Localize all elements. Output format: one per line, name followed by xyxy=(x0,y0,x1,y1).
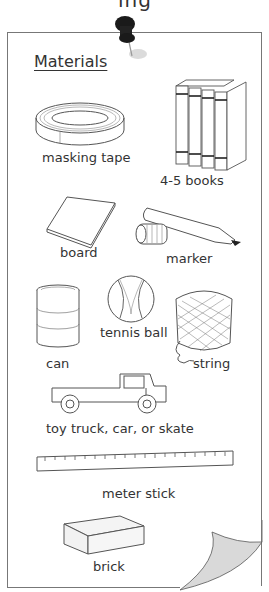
meter-stick-label: meter stick xyxy=(102,486,175,501)
page-curl-icon xyxy=(180,520,269,592)
toy-truck-label: toy truck, car, or skate xyxy=(46,421,194,436)
books-label: 4-5 books xyxy=(160,173,224,188)
can-icon xyxy=(34,284,82,350)
materials-title: Materials xyxy=(34,52,107,71)
pushpin-icon xyxy=(110,14,150,64)
toy-truck-icon xyxy=(50,372,170,414)
meter-stick-icon xyxy=(35,449,235,475)
marker-icon xyxy=(135,200,245,250)
masking-tape-icon xyxy=(30,100,130,150)
marker-label: marker xyxy=(166,251,212,266)
tennis-ball-label: tennis ball xyxy=(100,325,168,340)
cut-off-heading: ing xyxy=(0,0,269,12)
can-label: can xyxy=(46,356,69,371)
board-label: board xyxy=(60,245,98,260)
tennis-ball-icon xyxy=(106,274,156,324)
books-icon xyxy=(172,78,252,170)
brick-icon xyxy=(62,514,146,554)
string-label: string xyxy=(193,356,230,371)
string-icon xyxy=(170,285,240,365)
board-icon xyxy=(45,195,120,250)
masking-tape-label: masking tape xyxy=(42,150,130,165)
brick-label: brick xyxy=(93,559,125,574)
